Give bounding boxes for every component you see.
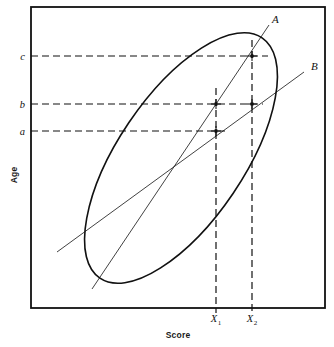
regression-line-B bbox=[57, 72, 304, 252]
y-tick-b: b bbox=[20, 99, 25, 110]
vertical-reference-lines bbox=[216, 40, 252, 313]
data-ellipse bbox=[48, 3, 315, 314]
frame-rect bbox=[31, 7, 325, 308]
curve-labels: AB bbox=[271, 13, 318, 72]
ellipse-boundary bbox=[48, 3, 315, 314]
y-tick-c: c bbox=[20, 51, 25, 62]
regression-lines bbox=[57, 25, 304, 289]
y-tick-a: a bbox=[20, 126, 25, 137]
x-tick-X2: X2 bbox=[246, 313, 258, 327]
curve-label-B: B bbox=[311, 60, 318, 72]
plot-frame bbox=[31, 7, 325, 308]
x-tick-X1: X1 bbox=[210, 313, 222, 327]
chart-figure: cba X1X2 AB Score Age bbox=[0, 0, 334, 347]
point-x1-a bbox=[211, 126, 221, 136]
regression-line-A bbox=[92, 25, 269, 289]
x-axis-tick-labels: X1X2 bbox=[210, 313, 258, 327]
curve-label-A: A bbox=[271, 13, 279, 25]
point-x2-c bbox=[247, 51, 257, 61]
x-axis-title: Score bbox=[166, 330, 191, 340]
diagram-canvas: cba X1X2 AB Score Age bbox=[0, 0, 334, 347]
y-axis-title: Age bbox=[9, 167, 19, 184]
point-x1-b bbox=[211, 99, 221, 109]
y-axis-tick-labels: cba bbox=[20, 51, 26, 137]
horizontal-reference-lines bbox=[31, 56, 268, 131]
